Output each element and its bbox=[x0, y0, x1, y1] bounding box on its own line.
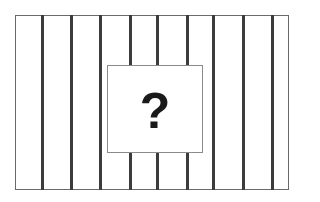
vertical-bar-9 bbox=[271, 15, 274, 190]
vertical-bar-3 bbox=[99, 15, 102, 190]
vertical-bar-2 bbox=[70, 15, 73, 190]
vertical-bar-8 bbox=[242, 15, 245, 190]
mystery-box: ? bbox=[107, 65, 203, 153]
vertical-bar-1 bbox=[41, 15, 44, 190]
vertical-bar-7 bbox=[212, 15, 215, 190]
question-mark-icon: ? bbox=[140, 86, 171, 136]
